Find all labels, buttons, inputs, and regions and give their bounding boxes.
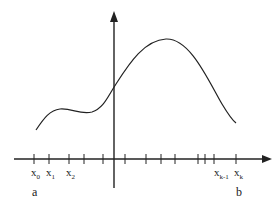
endpoint-labels: ab bbox=[32, 185, 242, 199]
y-axis-arrow-icon bbox=[110, 11, 118, 22]
point-labels: x0x1x2xk-1xk bbox=[31, 166, 244, 181]
x-axis-arrow-icon bbox=[262, 155, 272, 163]
partition-point-label: x2 bbox=[66, 166, 76, 181]
partition-point-label: xk-1 bbox=[214, 166, 229, 181]
function-curve bbox=[36, 39, 236, 130]
partition-point-label: xk bbox=[234, 166, 244, 181]
partition-point-label: x1 bbox=[46, 166, 56, 181]
endpoint-label: a bbox=[32, 185, 38, 199]
endpoint-label: b bbox=[236, 185, 242, 199]
partition-point-label: x0 bbox=[31, 166, 41, 181]
partition-diagram: x0x1x2xk-1xk ab bbox=[0, 0, 276, 209]
